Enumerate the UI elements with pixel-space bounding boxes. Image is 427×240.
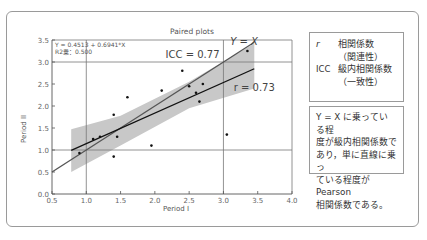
legend-icc-name: 級内相関係数 bbox=[338, 63, 392, 76]
y-tick-label: 1.5 bbox=[38, 125, 49, 133]
y-tick-label: 3.5 bbox=[38, 37, 49, 45]
note-line: あり，単に直線に乗っ bbox=[316, 149, 397, 174]
data-point bbox=[202, 83, 205, 86]
data-point bbox=[116, 136, 119, 139]
y-tick-label: 3.0 bbox=[38, 59, 49, 67]
x-tick-label: 4.0 bbox=[286, 197, 297, 205]
data-point bbox=[126, 96, 129, 99]
note-line: ている程度がPearson bbox=[316, 174, 397, 199]
x-tick-label: 1.0 bbox=[81, 197, 92, 205]
legend-box: r 相関係数 （関連性） ICC 級内相関係数 （一致性） bbox=[309, 32, 404, 102]
r-squared-label: R2乗：0.500 bbox=[55, 48, 92, 56]
data-point bbox=[195, 92, 198, 95]
legend-r-symbol: r bbox=[316, 38, 338, 51]
legend-r-row: r 相関係数 bbox=[316, 38, 397, 51]
data-point bbox=[188, 85, 191, 88]
legend-r-desc: （関連性） bbox=[316, 51, 397, 64]
regression-equation: Y = 0.4513 + 0.6941*X bbox=[54, 41, 125, 48]
y-tick-label: 0.5 bbox=[38, 169, 49, 177]
legend-icc-row: ICC 級内相関係数 bbox=[316, 63, 397, 76]
legend-icc-symbol: ICC bbox=[316, 63, 338, 76]
x-tick-label: 1.5 bbox=[115, 197, 126, 205]
regression-line bbox=[71, 69, 254, 151]
y-axis-label: Period II bbox=[20, 115, 28, 143]
yx-annotation: Y = X bbox=[230, 36, 259, 47]
data-point bbox=[112, 114, 115, 117]
data-point bbox=[226, 133, 229, 136]
data-point bbox=[181, 70, 184, 73]
data-point bbox=[112, 155, 115, 158]
data-point bbox=[246, 50, 249, 53]
chart-title: Paired plots bbox=[170, 27, 214, 36]
y-tick-label: 2.5 bbox=[38, 81, 49, 89]
x-tick-label: 2.5 bbox=[184, 197, 195, 205]
note-line: Y = X に乗っている程 bbox=[316, 111, 397, 136]
legend-icc-desc: （一致性） bbox=[316, 76, 397, 89]
note-line: 度が級内相関係数で bbox=[316, 136, 397, 149]
x-tick-label: 3.0 bbox=[218, 197, 229, 205]
data-point bbox=[78, 152, 81, 155]
x-tick-label: 3.5 bbox=[252, 197, 263, 205]
x-axis-label: Period I bbox=[163, 205, 189, 213]
y-tick-label: 0.0 bbox=[38, 191, 49, 199]
note-box: Y = X に乗っている程 度が級内相関係数で あり，単に直線に乗っ ている程度… bbox=[309, 106, 404, 174]
data-point bbox=[160, 89, 163, 92]
y-tick-label: 2.0 bbox=[38, 103, 49, 111]
confidence-band bbox=[71, 44, 254, 172]
r-annotation: r = 0.73 bbox=[234, 82, 275, 93]
data-point bbox=[198, 100, 201, 103]
y-tick-label: 1.0 bbox=[38, 147, 49, 155]
data-point bbox=[92, 138, 95, 141]
note-line: 相関係数である。 bbox=[316, 199, 397, 212]
data-point bbox=[150, 144, 153, 147]
x-tick-label: 2.0 bbox=[149, 197, 160, 205]
icc-annotation: ICC = 0.77 bbox=[166, 49, 220, 60]
legend-r-name: 相関係数 bbox=[338, 38, 374, 51]
data-point bbox=[99, 136, 102, 139]
